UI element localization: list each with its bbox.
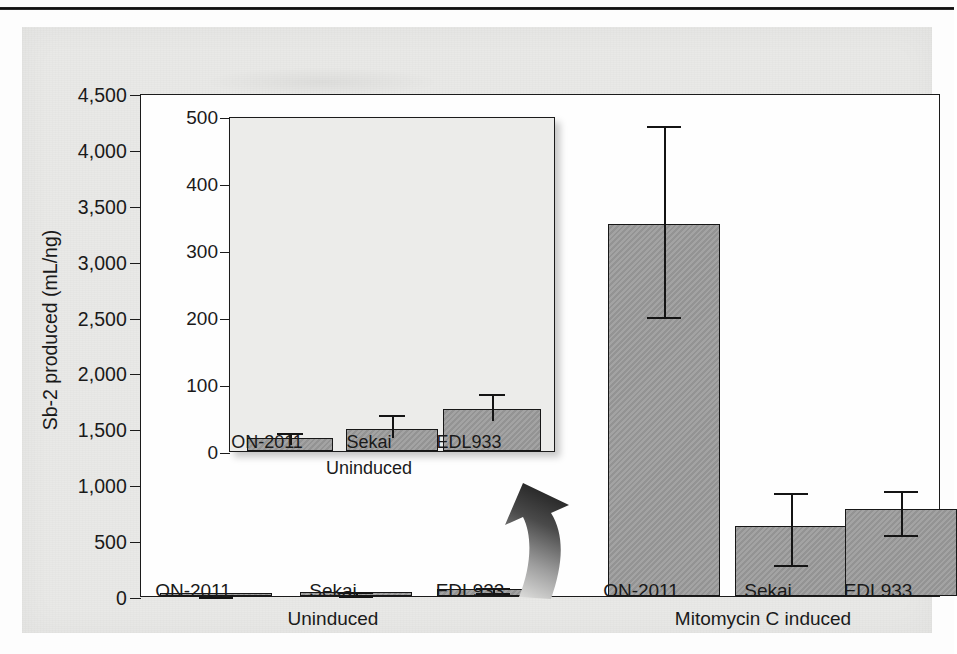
y-axis-title: Sb-2 produced (mL/ng) (39, 230, 62, 431)
main-y-tick-label: 2,500 (78, 307, 127, 330)
main-y-tick (130, 374, 141, 375)
scanned-figure-panel: Sb-2 produced (mL/ng) 05001,0001,5002,00… (22, 27, 932, 633)
inset-y-tick-label: 100 (186, 375, 218, 397)
main-error-bar (664, 126, 666, 318)
main-x-group-label: Mitomycin C induced (675, 608, 851, 630)
main-x-category-label: ON-2011 (603, 580, 679, 602)
main-error-cap-bottom (774, 565, 808, 567)
main-y-tick-label: 500 (94, 531, 127, 554)
inset-y-tick (220, 118, 230, 119)
main-x-group-label: Uninduced (288, 608, 379, 630)
main-y-tick-label: 4,000 (78, 139, 127, 162)
main-y-tick (130, 151, 141, 152)
main-error-cap-top (774, 493, 808, 495)
inset-y-tick-label: 400 (186, 174, 218, 196)
main-y-tick (130, 542, 141, 543)
inset-y-tick-label: 200 (186, 308, 218, 330)
inset-error-bar (392, 415, 394, 438)
inset-y-tick-label: 500 (186, 107, 218, 129)
main-y-tick-label: 1,000 (78, 475, 127, 498)
main-y-tick (130, 430, 141, 431)
main-error-bar (791, 493, 793, 565)
inset-x-group-label: Uninduced (326, 458, 412, 479)
main-error-bar (901, 491, 903, 535)
main-error-cap-bottom (647, 317, 681, 319)
main-y-tick-label: 3,500 (78, 195, 127, 218)
inset-plot-area: 0100200300400500 (229, 117, 555, 452)
main-error-cap-top (884, 491, 918, 493)
inset-x-category-label: EDL933 (436, 432, 501, 453)
main-y-tick (130, 486, 141, 487)
inset-y-tick-label: 300 (186, 241, 218, 263)
inset-y-tick (220, 252, 230, 253)
main-y-tick-label: 0 (116, 587, 127, 610)
main-y-tick-label: 1,500 (78, 419, 127, 442)
main-y-tick (130, 598, 141, 599)
main-y-tick (130, 319, 141, 320)
inset-y-tick-label: 0 (207, 442, 218, 464)
inset-y-tick (220, 185, 230, 186)
inset-y-tick (220, 386, 230, 387)
inset-error-cap-top (479, 394, 505, 396)
main-y-tick (130, 263, 141, 264)
main-x-category-label: EDL933 (436, 580, 505, 602)
main-x-category-label: EDL933 (844, 580, 913, 602)
main-y-tick (130, 95, 141, 96)
main-x-category-label: Sekai (309, 580, 357, 602)
inset-y-tick (220, 319, 230, 320)
inset-x-category-label: Sekai (346, 432, 391, 453)
main-y-tick-label: 2,000 (78, 363, 127, 386)
inset-y-tick (220, 453, 230, 454)
main-y-tick-label: 3,000 (78, 251, 127, 274)
main-error-cap-bottom (884, 535, 918, 537)
top-horizontal-rule (0, 7, 954, 10)
inset-error-bar (492, 394, 494, 421)
main-y-tick-label: 4,500 (78, 84, 127, 107)
inset-x-category-label: ON-2011 (231, 432, 303, 453)
main-x-category-label: Sekai (744, 580, 792, 602)
main-x-category-label: ON-2011 (155, 580, 231, 602)
main-error-cap-top (647, 126, 681, 128)
inset-error-cap-top (379, 415, 405, 417)
main-y-tick (130, 207, 141, 208)
